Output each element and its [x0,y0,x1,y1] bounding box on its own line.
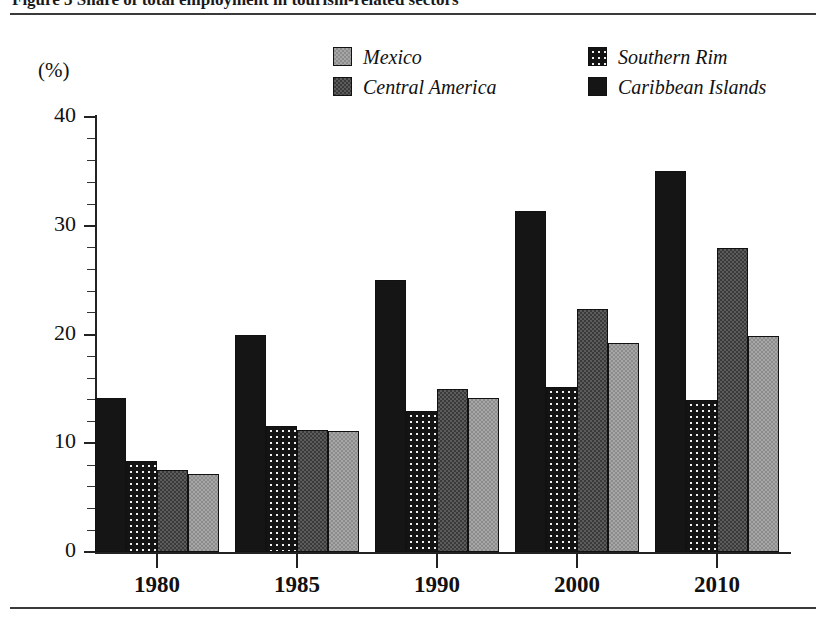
bar-southern-rim-2010 [686,400,717,552]
bar-central-america-2010 [717,248,748,553]
x-tick-2010 [716,552,718,568]
bar-mexico-1980 [188,474,219,552]
bar-mexico-1990 [468,398,499,552]
y-tick-major [84,551,95,553]
y-tick-minor [87,508,95,509]
bar-caribbean-islands-1985 [235,335,266,553]
bar-mexico-2000 [608,343,639,552]
y-tick-minor [87,465,95,466]
y-tick-minor [87,204,95,205]
y-tick-minor [87,530,95,531]
x-tick-1985 [296,552,298,568]
y-axis-label-40: 40 [30,102,76,128]
x-axis-label-1980: 1980 [97,572,217,598]
y-tick-minor [87,269,95,270]
y-tick-major [84,116,95,118]
y-tick-minor [87,291,95,292]
y-tick-minor [87,182,95,183]
bar-caribbean-islands-2000 [515,211,546,552]
y-tick-minor [87,486,95,487]
bar-central-america-1980 [157,470,188,552]
bar-caribbean-islands-1990 [375,280,406,552]
bar-central-america-1985 [297,430,328,552]
bar-southern-rim-1990 [406,411,437,552]
bar-mexico-1985 [328,431,359,552]
bar-central-america-1990 [437,389,468,552]
figure-container: Figure 3 Share of total employment in to… [0,0,826,631]
x-tick-1990 [436,552,438,568]
bar-southern-rim-2000 [546,387,577,552]
plot-area: 01020304019801985199020002010 [0,0,826,631]
x-axis-label-2010: 2010 [657,572,777,598]
y-tick-minor [87,399,95,400]
bar-caribbean-islands-1980 [95,398,126,552]
x-axis-label-1990: 1990 [377,572,497,598]
y-tick-minor [87,378,95,379]
x-tick-1980 [156,552,158,568]
y-tick-minor [87,160,95,161]
bar-central-america-2000 [577,309,608,552]
x-axis-label-1985: 1985 [237,572,357,598]
y-tick-major [84,442,95,444]
bar-caribbean-islands-2010 [655,171,686,552]
x-tick-2000 [576,552,578,568]
y-tick-minor [87,421,95,422]
x-axis-line [95,552,791,554]
y-tick-minor [87,247,95,248]
bottom-rule [10,607,816,609]
y-axis-label-20: 20 [30,320,76,346]
y-tick-minor [87,138,95,139]
bar-mexico-2010 [748,336,779,552]
y-axis-label-0: 0 [30,537,76,563]
y-axis-label-30: 30 [30,211,76,237]
x-axis-label-2000: 2000 [517,572,637,598]
y-tick-major [84,334,95,336]
y-tick-minor [87,312,95,313]
y-axis-label-10: 10 [30,428,76,454]
y-tick-minor [87,356,95,357]
y-tick-major [84,225,95,227]
bar-southern-rim-1980 [126,461,157,552]
bar-southern-rim-1985 [266,426,297,552]
